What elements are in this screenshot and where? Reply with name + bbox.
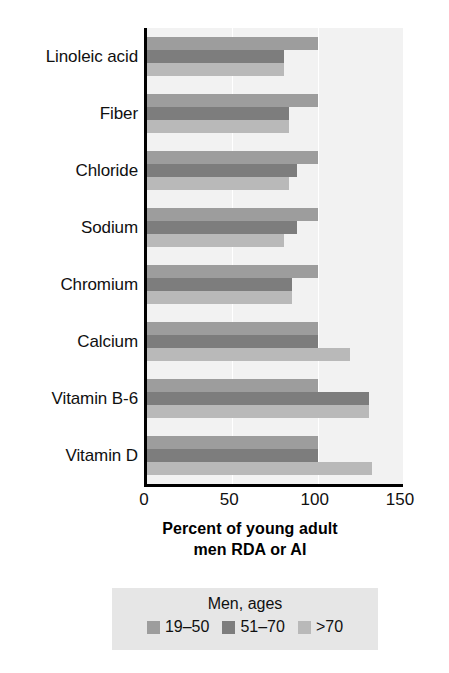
x-axis-tick-label: 0 — [139, 489, 148, 511]
legend-swatch-icon — [222, 621, 235, 634]
legend-item: 19–50 — [147, 618, 210, 636]
x-axis-tick-label: 50 — [220, 489, 239, 511]
bar — [147, 462, 372, 475]
chart-figure: Linoleic acidFiberChlorideSodiumChromium… — [0, 0, 449, 673]
bar — [147, 335, 318, 348]
y-axis-label: Vitamin D — [0, 446, 138, 465]
bar-group — [147, 265, 403, 304]
legend-swatch-icon — [298, 621, 311, 634]
bar — [147, 63, 284, 76]
bar-group — [147, 37, 403, 76]
x-axis-tick-label: 150 — [386, 489, 414, 511]
y-axis-label: Calcium — [0, 332, 138, 351]
legend-label: 51–70 — [240, 618, 285, 636]
bars-layer — [147, 28, 403, 484]
bar — [147, 234, 284, 247]
bar — [147, 37, 318, 50]
bar — [147, 94, 318, 107]
legend-items: 19–5051–70>70 — [112, 618, 378, 636]
legend-item: 51–70 — [222, 618, 285, 636]
bar — [147, 392, 369, 405]
legend-title: Men, ages — [112, 588, 378, 613]
bar — [147, 151, 318, 164]
y-axis-label: Chromium — [0, 275, 138, 294]
chart-legend: Men, ages 19–5051–70>70 — [112, 588, 378, 650]
bar — [147, 322, 318, 335]
legend-label: 19–50 — [165, 618, 210, 636]
bar — [147, 221, 297, 234]
bar — [147, 208, 318, 221]
bar — [147, 405, 369, 418]
bar — [147, 278, 292, 291]
bar — [147, 50, 284, 63]
legend-item: >70 — [298, 618, 343, 636]
x-axis-ticks: 050100150 — [144, 489, 400, 515]
bar — [147, 379, 318, 392]
y-axis-labels: Linoleic acidFiberChlorideSodiumChromium… — [0, 28, 138, 484]
bar-group — [147, 436, 403, 475]
bar — [147, 120, 289, 133]
bar-group — [147, 379, 403, 418]
bar — [147, 177, 289, 190]
legend-label: >70 — [316, 618, 343, 636]
legend-swatch-icon — [147, 621, 160, 634]
y-axis-label: Chloride — [0, 161, 138, 180]
y-axis-label: Fiber — [0, 104, 138, 123]
x-axis-title: Percent of young adult men RDA or AI — [100, 518, 400, 560]
x-axis-title-line1: Percent of young adult — [100, 518, 400, 539]
bar — [147, 449, 318, 462]
bar — [147, 107, 289, 120]
gridline — [403, 28, 404, 484]
bar — [147, 291, 292, 304]
y-axis-label: Sodium — [0, 218, 138, 237]
bar-group — [147, 208, 403, 247]
bar-group — [147, 322, 403, 361]
y-axis-label: Linoleic acid — [0, 47, 138, 66]
bar — [147, 265, 318, 278]
bar — [147, 348, 350, 361]
x-axis-title-line2: men RDA or AI — [100, 539, 400, 560]
bar-group — [147, 151, 403, 190]
x-axis-tick-label: 100 — [300, 489, 328, 511]
bar — [147, 164, 297, 177]
plot-area — [144, 28, 403, 487]
bar-group — [147, 94, 403, 133]
y-axis-label: Vitamin B-6 — [0, 389, 138, 408]
bar — [147, 436, 318, 449]
